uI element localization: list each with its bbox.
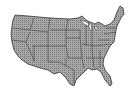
us-map [0,0,134,94]
